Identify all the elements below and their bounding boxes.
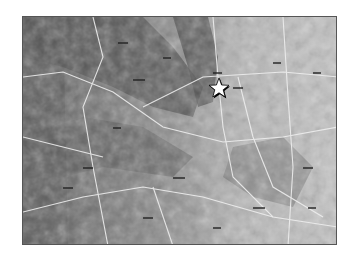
star-icon[interactable] <box>207 77 231 101</box>
map-frame[interactable] <box>22 16 337 245</box>
relief-map <box>23 17 337 245</box>
